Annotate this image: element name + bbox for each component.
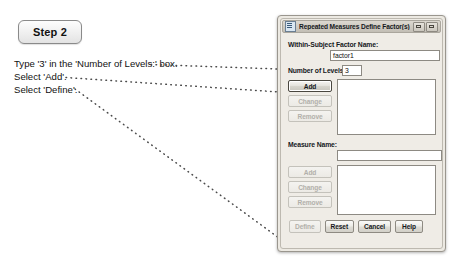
- step-badge: Step 2: [18, 20, 82, 44]
- measure-section: Add Change Remove: [288, 165, 436, 215]
- measure-remove-button: Remove: [288, 196, 332, 208]
- number-of-levels-input[interactable]: 3: [342, 65, 362, 76]
- dialog-footer: Define Reset Cancel Help: [288, 220, 436, 233]
- factor-change-button: Change: [288, 95, 332, 107]
- repeated-measures-define-factors-dialog: Repeated Measures Define Factor(s) Withi…: [277, 15, 446, 252]
- dialog-title: Repeated Measures Define Factor(s): [299, 23, 413, 30]
- within-subject-factor-name-input[interactable]: factor1: [330, 50, 440, 61]
- repeated-measures-icon: [285, 21, 296, 32]
- dialog-body: Within-Subject Factor Name: factor1 Numb…: [281, 35, 442, 248]
- factor-add-button[interactable]: Add: [288, 80, 332, 92]
- leader-line-define: [75, 89, 279, 238]
- factor-list-box[interactable]: [337, 79, 436, 135]
- window-controls: [413, 22, 438, 32]
- dialog-inner-frame: Repeated Measures Define Factor(s) Withi…: [280, 18, 443, 249]
- measure-add-button: Add: [288, 166, 332, 178]
- measure-name-label: Measure Name:: [288, 141, 436, 148]
- instruction-line-3: Select 'Define'.: [14, 83, 244, 96]
- measure-change-button: Change: [288, 181, 332, 193]
- factor-section: Add Change Remove: [288, 79, 436, 135]
- define-button: Define: [289, 220, 321, 233]
- number-of-levels-label: Number of Levels:: [288, 67, 342, 74]
- help-close-button[interactable]: [426, 22, 438, 32]
- step-badge-label: Step 2: [33, 26, 67, 38]
- help-button[interactable]: Help: [395, 220, 423, 233]
- factor-remove-button: Remove: [288, 110, 332, 122]
- number-of-levels-row: Number of Levels: 3: [288, 65, 436, 76]
- within-subject-factor-name-label: Within-Subject Factor Name:: [288, 41, 436, 48]
- measure-name-input[interactable]: [337, 150, 442, 161]
- instruction-line-1: Type '3' in the 'Number of Levels:' box.: [14, 57, 244, 70]
- minimize-restore-button[interactable]: [413, 22, 425, 32]
- instruction-list: Type '3' in the 'Number of Levels:' box.…: [14, 57, 244, 97]
- within-subject-factor-name-row: Within-Subject Factor Name: factor1: [288, 41, 436, 61]
- reset-button[interactable]: Reset: [325, 220, 354, 233]
- instruction-line-2: Select 'Add'.: [14, 70, 244, 83]
- factor-button-column: Add Change Remove: [288, 79, 332, 122]
- measure-button-column: Add Change Remove: [288, 165, 332, 208]
- measure-list-box[interactable]: [337, 165, 436, 215]
- dialog-titlebar[interactable]: Repeated Measures Define Factor(s): [282, 20, 441, 33]
- cancel-button[interactable]: Cancel: [358, 220, 391, 233]
